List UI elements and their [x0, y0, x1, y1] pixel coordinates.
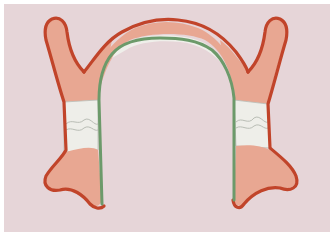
left-molars: [64, 100, 98, 152]
right-flange-lower: [234, 145, 296, 205]
left-flange-lower: [45, 148, 102, 206]
right-molars: [234, 100, 270, 148]
dental-arch-diagram: [0, 0, 332, 238]
right-flange-upper: [220, 19, 287, 104]
figure-frame: [0, 0, 332, 238]
left-flange-upper: [45, 19, 112, 102]
inner-outline: [99, 38, 234, 204]
